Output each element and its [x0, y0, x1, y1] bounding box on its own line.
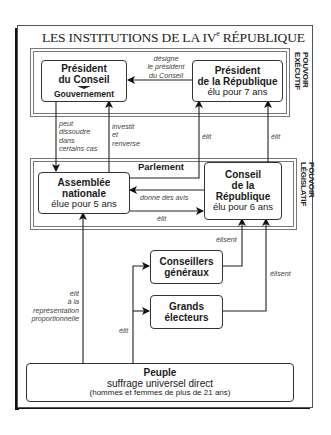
label-donne-avis: donne des avis — [140, 194, 188, 202]
box-conseil-republique: Conseil de la République élu pour 6 ans — [204, 162, 282, 220]
grands-electeurs-line2: électeurs — [165, 312, 209, 323]
label-proportionnelle-line: proportionnelle — [28, 315, 79, 323]
conseillers-line1: Conseillers — [160, 256, 214, 267]
assemblee-line1: Assemblée — [58, 177, 111, 188]
conseillers-line2: généraux — [164, 267, 208, 278]
peuple-title: Peuple — [144, 367, 177, 378]
label-investit: investit et renverse — [112, 123, 140, 148]
president-republique-line1: Président — [215, 65, 261, 76]
label-elisent-ge: élisent — [270, 270, 291, 278]
label-elit-an-cr: élit — [157, 215, 166, 223]
conseil-republique-term: élu pour 6 ans — [213, 202, 273, 213]
label-dissoudre-line: certains cas — [59, 145, 97, 153]
grands-electeurs-line1: Grands — [169, 301, 204, 312]
president-conseil-line1: Président — [61, 63, 107, 74]
arrow-elit-peuple-cg — [133, 266, 149, 363]
label-dissoudre: peut dissoudre dans certains cas — [59, 120, 97, 153]
box-president-conseil: Président du Conseil Gouvernement — [41, 60, 127, 102]
peuple-condition: (hommes et femmes de plus de 21 ans) — [90, 389, 231, 398]
label-elit-proportionnelle: élit à la représentation proportionnelle — [28, 290, 79, 323]
label-investit-line: renverse — [112, 140, 140, 148]
label-elit-pr-2: élit — [271, 133, 280, 141]
label-elisent-cg: élisent — [216, 236, 237, 244]
arrow-elit-pr-1 — [130, 101, 199, 178]
box-assemblee-nationale: Assemblée nationale élue pour 5 ans — [38, 172, 130, 214]
box-president-republique: Président de la République élu pour 7 an… — [192, 60, 283, 102]
gouvernement-label: Gouvernement — [54, 90, 114, 100]
label-designe: désigne le président du Conseil — [141, 55, 191, 80]
assemblee-term: élue pour 5 ans — [51, 199, 117, 210]
box-grands-electeurs: Grands électeurs — [150, 295, 223, 329]
arrow-elisent-ge — [222, 219, 266, 311]
label-designe-line: du Conseil — [141, 72, 191, 80]
diagram: LES INSTITUTIONS DE LA IVe RÉPUBLIQUE PO… — [0, 0, 331, 435]
box-conseillers-generaux: Conseillers généraux — [150, 250, 223, 284]
conseil-republique-line2: de la — [232, 180, 255, 191]
label-elit-peuple: élit — [119, 327, 128, 335]
president-republique-term: élu pour 7 ans — [207, 87, 267, 98]
president-conseil-line2: du Conseil — [58, 74, 109, 85]
conseil-republique-line1: Conseil — [225, 169, 261, 180]
label-elit-pr-1: élit — [202, 133, 211, 141]
box-peuple: Peuple suffrage universel direct (hommes… — [26, 363, 294, 402]
